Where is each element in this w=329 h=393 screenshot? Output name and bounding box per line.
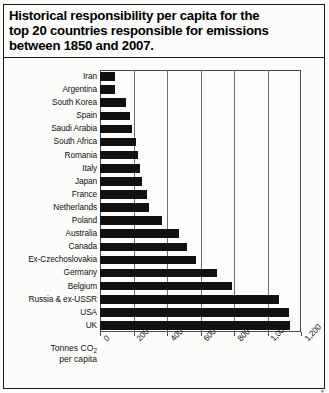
- gridline: [134, 70, 135, 332]
- x-tick-mark: [268, 332, 269, 336]
- gridline: [234, 70, 235, 332]
- bar: [100, 216, 162, 225]
- axis-title-main: Tonnes CO: [50, 343, 93, 353]
- bar: [100, 177, 142, 186]
- category-label: USA: [0, 308, 97, 317]
- page-title: Historical responsibility per capita for…: [9, 8, 299, 53]
- category-label: Romania: [0, 151, 97, 160]
- x-tick-label: 1,200: [303, 323, 323, 344]
- figure-container: Historical responsibility per capita for…: [0, 0, 329, 393]
- gridline: [268, 70, 269, 332]
- category-label: Saudi Arabia: [0, 124, 97, 133]
- bar: [100, 72, 115, 81]
- bar: [100, 269, 217, 278]
- category-label: South Africa: [0, 137, 97, 146]
- category-label: Spain: [0, 111, 97, 120]
- bar: [100, 243, 187, 252]
- category-label: UK: [0, 321, 97, 330]
- category-label: Netherlands: [0, 203, 97, 212]
- category-label: Italy: [0, 164, 97, 173]
- bar: [100, 321, 290, 330]
- title-line-1: Historical responsibility per capita for…: [9, 8, 299, 23]
- bar: [100, 295, 279, 304]
- bar: [100, 125, 132, 134]
- bar: [100, 256, 196, 265]
- axis-title-subscript: 2: [93, 347, 97, 354]
- gridline: [167, 70, 168, 332]
- bar: [100, 138, 136, 147]
- x-tick-mark: [301, 332, 302, 336]
- bar: [100, 190, 147, 199]
- category-label: France: [0, 190, 97, 199]
- category-label: Germany: [0, 268, 97, 277]
- bar: [100, 164, 140, 173]
- x-tick-mark: [167, 332, 168, 336]
- category-label: Argentina: [0, 85, 97, 94]
- category-label: Canada: [0, 242, 97, 251]
- bar: [100, 151, 138, 160]
- category-label: South Korea: [0, 98, 97, 107]
- x-tick-mark: [201, 332, 202, 336]
- x-tick-mark: [234, 332, 235, 336]
- title-line-2: top 20 countries responsible for emissio…: [9, 23, 299, 38]
- bar: [100, 203, 149, 212]
- category-label: Australia: [0, 229, 97, 238]
- category-label: Russia & ex-USSR: [0, 295, 97, 304]
- axis-title-second-line: per capita: [59, 354, 97, 364]
- bar: [100, 282, 232, 291]
- x-tick-mark: [134, 332, 135, 336]
- x-axis-title: Tonnes CO2 per capita: [33, 343, 97, 364]
- bar: [100, 98, 126, 107]
- category-label: Japan: [0, 177, 97, 186]
- bar: [100, 229, 179, 238]
- x-tick-mark: [100, 332, 101, 336]
- bar-chart: IranArgentinaSouth KoreaSpainSaudi Arabi…: [0, 60, 329, 393]
- bar: [100, 112, 130, 121]
- source-credit: Based on 2007/08 UN population estimates…: [319, 388, 325, 393]
- category-label: Iran: [0, 72, 97, 81]
- title-divider: [4, 57, 324, 58]
- category-label: Ex-Czechoslovakia: [0, 255, 97, 264]
- x-tick-label: 0: [102, 334, 112, 343]
- bar: [100, 85, 115, 94]
- category-label: Belgium: [0, 282, 97, 291]
- title-line-3: between 1850 and 2007.: [9, 38, 299, 53]
- category-label: Poland: [0, 216, 97, 225]
- bar: [100, 308, 289, 317]
- gridline: [201, 70, 202, 332]
